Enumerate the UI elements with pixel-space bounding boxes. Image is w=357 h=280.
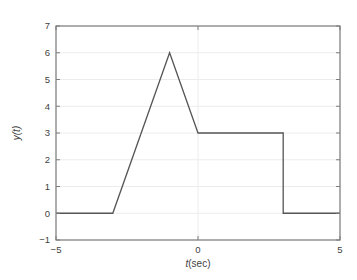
y-tick-label: 7 xyxy=(45,20,50,31)
x-tick-label: −5 xyxy=(51,244,62,255)
x-axis-label: t(sec) xyxy=(185,258,210,269)
y-tick-label: 2 xyxy=(45,154,50,165)
y-tick-label: 3 xyxy=(45,127,50,138)
x-tick-labels: −505 xyxy=(51,244,343,255)
y-tick-label: 6 xyxy=(45,47,50,58)
y-tick-label: 4 xyxy=(45,101,50,112)
y-axis-label: y(t) xyxy=(11,126,22,140)
y-tick-labels: −101234567 xyxy=(39,20,50,245)
y-tick-label: 1 xyxy=(45,181,50,192)
y-tick-label: 0 xyxy=(45,208,50,219)
x-tick-label: 5 xyxy=(337,244,342,255)
y-tick-label: −1 xyxy=(39,234,50,245)
y-tick-label: 5 xyxy=(45,74,50,85)
figure: −101234567−505 y(t) t(sec) xyxy=(0,0,357,280)
x-axis-label-unit: (sec) xyxy=(188,258,210,269)
plot-canvas: −101234567−505 xyxy=(0,0,357,280)
x-tick-label: 0 xyxy=(195,244,200,255)
